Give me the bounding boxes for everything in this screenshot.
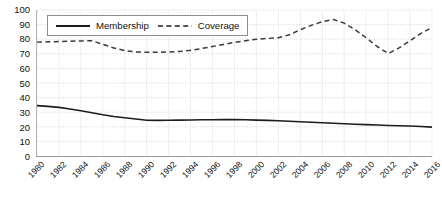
y-axis-tick-label: 80 [0, 35, 30, 45]
y-axis-tick-label: 30 [0, 108, 30, 118]
y-axis-tick-label: 70 [0, 49, 30, 59]
legend-entry-coverage: Coverage [158, 21, 240, 31]
y-axis-tick-label: 0 [0, 152, 30, 162]
y-axis-tick-label: 20 [0, 123, 30, 133]
y-axis-tick-label: 60 [0, 64, 30, 74]
y-axis-tick-label: 40 [0, 93, 30, 103]
y-axis-tick-label: 10 [0, 138, 30, 148]
legend-swatch-solid-line-icon [56, 22, 90, 30]
legend-label: Coverage [198, 21, 240, 31]
series-line-membership [37, 106, 432, 127]
legend-label: Membership [96, 21, 149, 31]
y-axis-tick-label: 90 [0, 20, 30, 30]
chart-legend: MembershipCoverage [47, 15, 248, 36]
y-axis-tick-label: 50 [0, 79, 30, 89]
legend-entry-membership: Membership [56, 21, 149, 31]
legend-swatch-dashed-line-icon [158, 22, 192, 30]
y-axis-tick-label: 100 [0, 5, 30, 15]
